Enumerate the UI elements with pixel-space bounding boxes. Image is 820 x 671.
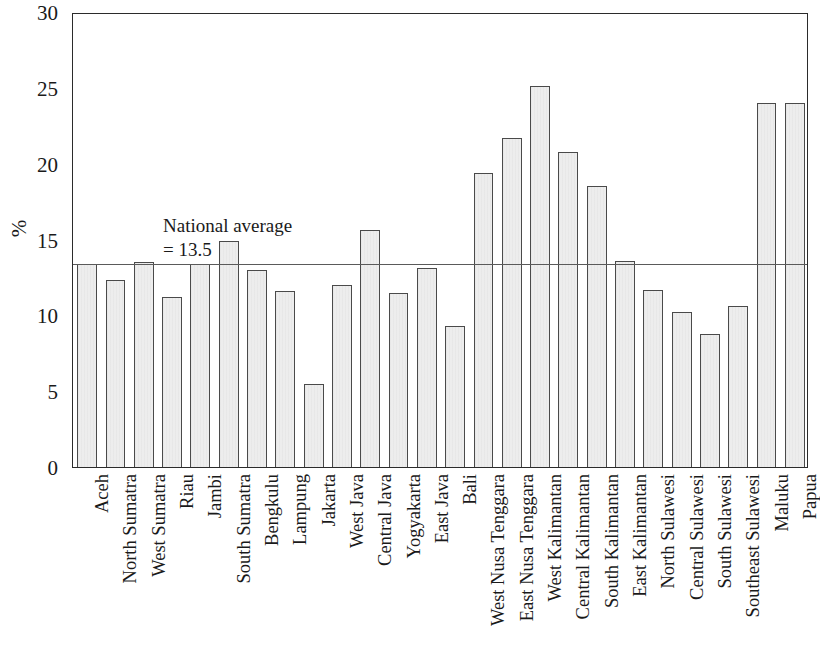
x-label-slot: Riau — [157, 470, 185, 665]
x-label-slot: East Kalimantan — [610, 470, 638, 665]
bar — [304, 384, 324, 467]
x-label-slot: East Java — [412, 470, 440, 665]
x-label-slot: West Kalimantan — [525, 470, 553, 665]
bar — [162, 297, 182, 467]
bar — [106, 280, 126, 467]
y-axis-tick-labels: 051015202530 — [14, 0, 58, 671]
bar — [77, 264, 97, 467]
x-label-slot: North Sulawesi — [638, 470, 666, 665]
bar — [445, 326, 465, 467]
bar — [275, 291, 295, 467]
x-label-slot: Jambi — [185, 470, 213, 665]
y-tick-label: 15 — [14, 231, 58, 252]
x-label-slot: Maluku — [751, 470, 779, 665]
y-tick-label: 20 — [14, 155, 58, 176]
x-label-slot: Central Kalimantan — [553, 470, 581, 665]
bar — [190, 264, 210, 467]
bar — [785, 103, 805, 467]
x-label-slot: Aceh — [72, 470, 100, 665]
national-average-line — [73, 264, 807, 265]
bar — [219, 241, 239, 467]
bar — [417, 268, 437, 467]
x-label-slot: West Sumatra — [129, 470, 157, 665]
bar — [530, 86, 550, 467]
y-tick-label: 25 — [14, 79, 58, 100]
bar — [643, 290, 663, 467]
bar — [728, 306, 748, 467]
y-tick-label: 10 — [14, 306, 58, 327]
x-label-slot: Central Sulawesi — [666, 470, 694, 665]
x-label-slot: Lampung — [270, 470, 298, 665]
x-label-slot: Papua — [780, 470, 808, 665]
x-label-slot: East Nusa Tenggara — [497, 470, 525, 665]
national-average-annotation-line1: National average — [163, 214, 292, 238]
x-tick-label: Papua — [801, 474, 820, 519]
bar — [757, 103, 777, 467]
bar — [558, 152, 578, 467]
national-average-annotation-line2: = 13.5 — [163, 238, 292, 262]
bar — [615, 261, 635, 467]
y-tick-label: 0 — [14, 458, 58, 479]
x-label-slot: Yogyakarta — [383, 470, 411, 665]
plot-area: National average = 13.5 — [72, 13, 808, 468]
x-label-slot: South Kalimantan — [582, 470, 610, 665]
bar — [672, 312, 692, 467]
x-label-slot: Jakarta — [298, 470, 326, 665]
y-tick-label: 30 — [14, 3, 58, 24]
x-label-slot: South Sumatra — [214, 470, 242, 665]
x-label-slot: Central Java — [355, 470, 383, 665]
bar — [587, 186, 607, 467]
x-label-slot: West Java — [327, 470, 355, 665]
bar — [389, 293, 409, 467]
y-tick-label: 5 — [14, 382, 58, 403]
x-axis-tick-labels: AcehNorth SumatraWest SumatraRiauJambiSo… — [72, 470, 808, 670]
bar — [247, 270, 267, 467]
bar — [360, 230, 380, 467]
x-label-slot: Bengkulu — [242, 470, 270, 665]
bar — [474, 173, 494, 467]
x-label-slot: West Nusa Tenggara — [468, 470, 496, 665]
bar — [332, 285, 352, 467]
x-label-slot: South Sulawesi — [695, 470, 723, 665]
national-average-annotation: National average = 13.5 — [163, 214, 292, 262]
x-label-slot: Bali — [440, 470, 468, 665]
bar — [502, 138, 522, 467]
bar — [134, 262, 154, 467]
x-label-slot: North Sumatra — [100, 470, 128, 665]
x-label-slot: Southeast Sulawesi — [723, 470, 751, 665]
bar — [700, 334, 720, 467]
